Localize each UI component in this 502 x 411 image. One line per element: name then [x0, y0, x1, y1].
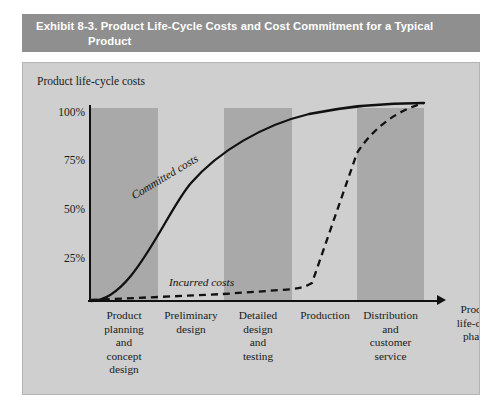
x-category-line: Distribution	[357, 309, 424, 323]
x-category-line: Preliminary	[158, 309, 224, 323]
exhibit-title: Exhibit 8-3. Product Life-Cycle Costs an…	[36, 19, 466, 49]
x-category-line: and	[357, 323, 424, 337]
x-category-line: and	[90, 336, 158, 350]
x-axis-label: Product life-cycle phases	[447, 303, 480, 344]
chart-panel: Product life-cycle costs 100% 75% 50% 25…	[22, 62, 480, 395]
x-category-line: design	[90, 363, 158, 377]
x-axis-label-line2: life-cycle	[447, 317, 480, 331]
x-category-line: planning	[90, 323, 158, 337]
x-category-line: Detailed	[224, 309, 292, 323]
x-axis-label-line1: Product	[447, 303, 480, 317]
x-category-line: and	[224, 336, 292, 350]
x-category-line: Product	[90, 309, 158, 323]
exhibit-title-line1: Exhibit 8-3. Product Life-Cycle Costs an…	[36, 20, 433, 32]
x-category-line: Production	[292, 309, 358, 323]
x-category-line: design	[158, 323, 224, 337]
x-category-production: Production	[292, 309, 358, 323]
x-category-line: design	[224, 323, 292, 337]
x-category-preliminary-design: Preliminary design	[158, 309, 224, 336]
exhibit-title-bar: Exhibit 8-3. Product Life-Cycle Costs an…	[22, 14, 480, 52]
x-category-line: service	[357, 350, 424, 364]
x-category-product-planning: Product planning and concept design	[90, 309, 158, 377]
incurred-costs-label: Incurred costs	[169, 276, 234, 288]
x-category-detailed-design: Detailed design and testing	[224, 309, 292, 363]
x-axis-label-line3: phases	[447, 330, 480, 344]
x-category-line: testing	[224, 350, 292, 364]
exhibit-title-line2: Product	[36, 34, 466, 49]
x-category-line: customer	[357, 336, 424, 350]
x-category-line: concept	[90, 350, 158, 364]
plot-area: Product life-cycle costs 100% 75% 50% 25…	[23, 63, 479, 394]
exhibit-figure: Exhibit 8-3. Product Life-Cycle Costs an…	[0, 0, 502, 411]
x-category-distribution: Distribution and customer service	[357, 309, 424, 363]
